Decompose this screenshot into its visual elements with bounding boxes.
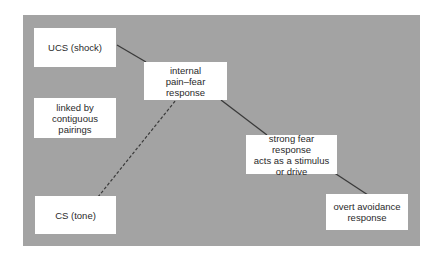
node-strong-fear-response: strong fear response acts as a stimulus … — [246, 135, 337, 174]
node-internal-pain-fear-response: internal pain–fear response — [144, 62, 227, 100]
node-label: UCS (shock) — [48, 42, 102, 53]
node-cs-tone: CS (tone) — [35, 196, 116, 234]
node-label: internal pain–fear response — [166, 65, 206, 98]
node-overt-avoidance-response: overt avoidance response — [326, 194, 408, 230]
node-label: overt avoidance response — [333, 201, 400, 223]
node-label: CS (tone) — [55, 210, 96, 221]
node-ucs-shock: UCS (shock) — [34, 28, 116, 67]
node-label: linked by contiguous pairings — [52, 102, 98, 135]
node-label: strong fear response acts as a stimulus … — [249, 133, 334, 177]
node-linked-by-contiguous-pairings: linked by contiguous pairings — [34, 98, 116, 138]
